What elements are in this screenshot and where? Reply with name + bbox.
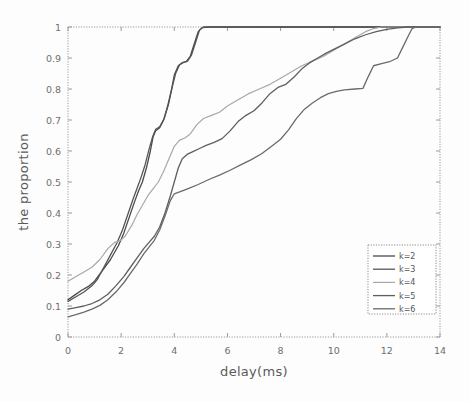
- cdf-line-chart: 02468101214 00.10.20.30.40.50.60.70.80.9…: [0, 0, 469, 402]
- x-tick-label-6: 12: [381, 345, 393, 356]
- y-tick-label-9: 0.9: [46, 53, 61, 64]
- y-tick-label-6: 0.6: [46, 146, 61, 157]
- x-axis-tick-labels: 02468101214: [65, 345, 446, 356]
- legend-label-k-5: k=5: [399, 292, 415, 301]
- y-tick-label-0: 0: [55, 332, 61, 343]
- y-axis-tick-labels: 00.10.20.30.40.50.60.70.80.91: [46, 22, 61, 343]
- x-tick-label-5: 10: [328, 345, 340, 356]
- legend-label-k-3: k=3: [399, 265, 415, 274]
- x-tick-label-1: 2: [118, 345, 124, 356]
- legend-label-k-4: k=4: [399, 278, 415, 287]
- y-tick-label-2: 0.2: [46, 270, 61, 281]
- legend-label-k-6: k=6: [399, 305, 415, 314]
- legend-label-k-2: k=2: [399, 252, 415, 261]
- y-tick-label-10: 1: [55, 22, 61, 33]
- x-tick-label-4: 8: [278, 345, 284, 356]
- x-tick-label-0: 0: [65, 345, 71, 356]
- x-tick-label-7: 14: [434, 345, 446, 356]
- x-tick-label-3: 6: [224, 345, 230, 356]
- x-tick-label-2: 4: [171, 345, 177, 356]
- series-line-k-4: [68, 27, 440, 281]
- figure-container: 02468101214 00.10.20.30.40.50.60.70.80.9…: [0, 0, 469, 402]
- y-tick-label-3: 0.3: [46, 239, 61, 250]
- y-axis-label: the proportion: [16, 133, 31, 230]
- y-tick-label-5: 0.5: [46, 177, 61, 188]
- chart-canvas: 02468101214 00.10.20.30.40.50.60.70.80.9…: [0, 0, 469, 402]
- y-tick-label-8: 0.8: [46, 84, 61, 95]
- chart-legend: k=2k=3k=4k=5k=6: [368, 245, 436, 314]
- y-tick-label-4: 0.4: [46, 208, 61, 219]
- y-tick-label-7: 0.7: [46, 115, 61, 126]
- y-tick-label-1: 0.1: [46, 301, 61, 312]
- x-axis-label: delay(ms): [220, 364, 288, 379]
